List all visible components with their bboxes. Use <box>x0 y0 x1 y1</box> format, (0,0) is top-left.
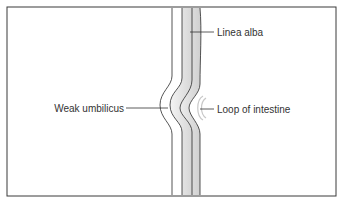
label-linea-alba: Linea alba <box>217 27 264 38</box>
label-loop-of-intestine: Loop of intestine <box>217 104 291 115</box>
umbilical-hernia-diagram: Linea alba Weak umbilicus Loop of intest… <box>0 0 342 203</box>
label-weak-umbilicus: Weak umbilicus <box>54 103 124 114</box>
